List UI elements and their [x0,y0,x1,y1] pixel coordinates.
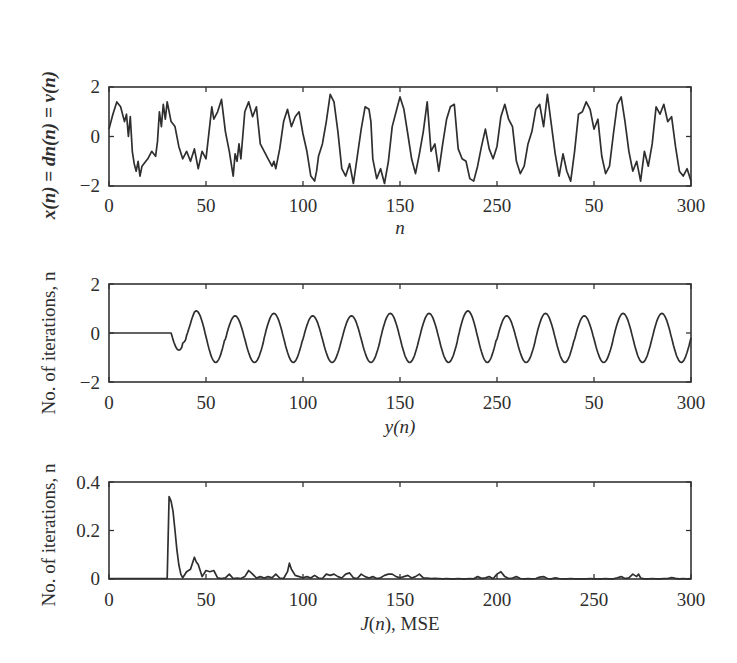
x-tick-label: 300 [677,195,706,216]
figure: 2 0 −2 0 50 100 150 250 50 300 n x(n) = … [0,0,737,663]
plot-frame-middle [109,284,691,382]
y-tick-label: 0 [91,323,101,344]
x-tick-label: 150 [386,392,415,413]
y-axis-label-top: x(n) = dn(n) = v(n) [38,71,60,220]
tick-marks-top [109,87,691,186]
x-tick-label: 300 [677,392,706,413]
panel-top: 2 0 −2 0 50 100 150 250 50 300 n x(n) = … [38,71,705,238]
x-tick-label: 50 [197,195,216,216]
x-tick-label: 100 [289,589,318,610]
y-axis-label-middle: No. of iterations, n [38,271,59,415]
plot-frame-top [109,87,691,186]
series-y-n [109,311,691,363]
tick-marks-middle [109,284,691,382]
x-tick-label: 0 [104,392,114,413]
y-tick-label: 0.4 [76,472,100,493]
y-tick-label: 0 [91,126,101,147]
panel-bottom: 0.4 0.2 0 0 50 100 150 200 250 300 J(n),… [38,463,705,635]
x-tick-label: 150 [386,589,415,610]
tick-marks-bottom [109,482,691,579]
y-axis-label-bottom: No. of iterations, n [38,463,59,607]
plot-frame-bottom [109,482,691,579]
x-tick-label: 150 [386,195,415,216]
x-tick-label: 50 [585,195,604,216]
y-tick-label: 0.2 [76,520,100,541]
x-tick-label: 250 [483,195,512,216]
x-tick-label: 0 [104,195,114,216]
y-tick-label: 2 [91,76,101,97]
x-tick-label: 100 [289,392,318,413]
x-tick-label: 100 [289,195,318,216]
x-axis-label-bottom: J(n), MSE [360,613,439,635]
y-tick-label: −2 [80,175,100,196]
panel-middle: 2 0 −2 0 50 100 150 250 50 300 y(n) No. … [38,271,705,438]
y-tick-label: −2 [80,372,100,393]
x-tick-label: 300 [677,589,706,610]
series-x-n [109,94,691,183]
x-tick-label: 200 [483,589,512,610]
x-tick-label: 50 [585,392,604,413]
x-tick-label: 0 [104,589,114,610]
y-tick-label: 2 [91,274,101,295]
x-tick-label: 50 [197,589,216,610]
series-j-n [109,497,691,579]
x-tick-label: 250 [483,392,512,413]
x-axis-label-middle: y(n) [383,416,416,438]
x-tick-label: 250 [580,589,609,610]
x-axis-label-top: n [395,217,405,238]
x-tick-label: 50 [197,392,216,413]
y-tick-label: 0 [91,568,101,589]
